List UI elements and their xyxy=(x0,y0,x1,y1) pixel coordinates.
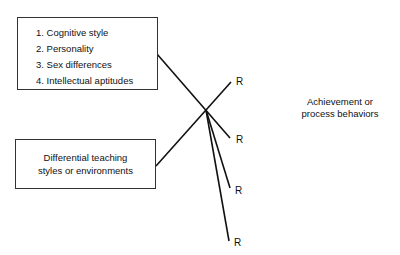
response-label: R xyxy=(236,76,243,87)
aptitude-item: 3. Sex differences xyxy=(36,57,157,73)
treatment-line-2: styles or environments xyxy=(16,164,155,177)
response-label: R xyxy=(236,134,243,145)
outcome-line-1: Achievement or xyxy=(285,96,395,108)
response-label: R xyxy=(235,185,242,196)
aptitude-box: 1. Cognitive style 2. Personality 3. Sex… xyxy=(17,17,158,90)
aptitude-item: 2. Personality xyxy=(36,41,157,57)
aptitude-item: 1. Cognitive style xyxy=(36,25,157,41)
treatment-line-1: Differential teaching xyxy=(16,151,155,164)
outcome-line-2: process behaviors xyxy=(285,108,395,120)
aptitude-item: 4. Intellectual aptitudes xyxy=(36,73,157,89)
treatment-box: Differential teaching styles or environm… xyxy=(15,139,156,189)
response-label: R xyxy=(234,237,241,248)
outcome-label: Achievement or process behaviors xyxy=(285,96,395,120)
